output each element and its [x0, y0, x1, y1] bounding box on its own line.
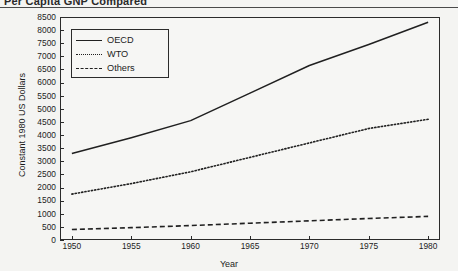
chart-page: Per Capita GNP Compared 0500100015002000…: [0, 0, 458, 271]
y-axis-tick-mark: [60, 227, 64, 228]
y-axis-tick-mark: [60, 161, 64, 162]
x-axis-tick-label: 1970: [286, 242, 332, 251]
y-axis-tick-mark: [60, 17, 64, 18]
x-axis-tick-label: 1960: [168, 242, 214, 251]
y-axis-tick-mark: [60, 109, 64, 110]
x-axis-tick-label: 1980: [405, 242, 451, 251]
y-axis-tick-mark: [60, 56, 64, 57]
x-axis-tick-label: 1965: [227, 242, 273, 251]
legend-label: WTO: [107, 48, 128, 61]
legend-swatch-dashed-icon: [76, 68, 102, 69]
y-axis-tick-mark: [60, 122, 64, 123]
y-axis-tick-mark: [60, 30, 64, 31]
page-title: Per Capita GNP Compared: [4, 0, 147, 7]
x-axis-tick-label: 1975: [346, 242, 392, 251]
y-axis-tick-mark: [60, 174, 64, 175]
legend-item-wto[interactable]: WTO: [76, 48, 168, 61]
y-axis-tick-mark: [60, 96, 64, 97]
x-axis-tick-mark: [191, 236, 192, 240]
legend-label: OECD: [107, 34, 134, 47]
y-axis-tick-mark: [60, 43, 64, 44]
y-axis-tick-mark: [60, 83, 64, 84]
x-axis-tick-labels: 1950195519601965197019751980: [0, 8, 458, 271]
legend: OECDWTOOthers: [71, 29, 169, 78]
x-axis-tick-mark: [428, 236, 429, 240]
x-axis-tick-label: 1950: [49, 242, 95, 251]
y-axis-tick-mark: [60, 135, 64, 136]
x-axis-tick-mark: [309, 236, 310, 240]
x-axis-tick-mark: [369, 236, 370, 240]
x-axis-title: Year: [0, 259, 458, 269]
y-axis-tick-mark: [60, 148, 64, 149]
x-axis-tick-mark: [250, 236, 251, 240]
y-axis-tick-mark: [60, 201, 64, 202]
y-axis-title: Constant 1980 US Dollars: [17, 45, 27, 205]
legend-item-oecd[interactable]: OECD: [76, 34, 168, 47]
y-axis-tick-mark: [60, 69, 64, 70]
figure: 0500100015002000250030003500400045005000…: [0, 8, 458, 271]
y-axis-tick-mark: [60, 188, 64, 189]
y-axis-tick-mark: [60, 214, 64, 215]
x-axis-tick-mark: [131, 236, 132, 240]
legend-swatch-solid-icon: [76, 40, 102, 41]
y-axis-tick-mark: [60, 240, 64, 241]
legend-item-others[interactable]: Others: [76, 62, 168, 75]
x-axis-tick-mark: [72, 236, 73, 240]
x-axis-tick-label: 1955: [108, 242, 154, 251]
legend-label: Others: [107, 62, 135, 75]
legend-swatch-dotted-icon: [76, 54, 102, 55]
